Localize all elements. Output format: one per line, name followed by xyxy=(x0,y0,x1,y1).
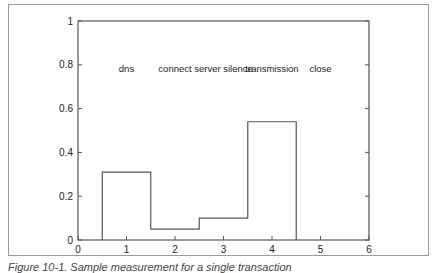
x-tick-label: 0 xyxy=(75,244,81,255)
x-tick-label: 2 xyxy=(172,244,178,255)
y-tick-label: 1 xyxy=(67,16,73,27)
figure-caption: Figure 10-1. Sample measurement for a si… xyxy=(8,261,292,273)
step-bar-chart: 00.20.40.60.81 0123456 dnsconnectserver … xyxy=(0,0,436,273)
x-tick-label: 4 xyxy=(269,244,275,255)
x-tick-label: 6 xyxy=(366,244,372,255)
phase-label-server-silence: server silence xyxy=(194,63,253,74)
phase-label-dns: dns xyxy=(119,63,135,74)
phase-labels: dnsconnectserver silencetransmissionclos… xyxy=(119,63,332,74)
y-tick-label: 0.8 xyxy=(59,59,73,70)
step-outline-series xyxy=(102,122,296,240)
x-axis-ticks: 0123456 xyxy=(75,236,372,255)
y-axis-ticks: 00.20.40.60.81 xyxy=(59,16,369,246)
phase-label-connect: connect xyxy=(158,63,192,74)
phase-label-close: close xyxy=(309,63,331,74)
plot-axes xyxy=(78,21,369,240)
y-tick-label: 0.4 xyxy=(59,147,73,158)
x-tick-label: 5 xyxy=(318,244,324,255)
plot-area-border xyxy=(78,21,369,240)
x-tick-label: 3 xyxy=(221,244,227,255)
y-tick-label: 0 xyxy=(67,235,73,246)
x-tick-label: 1 xyxy=(124,244,130,255)
y-tick-label: 0.6 xyxy=(59,103,73,114)
y-tick-label: 0.2 xyxy=(59,191,73,202)
phase-label-transmission: transmission xyxy=(245,63,298,74)
